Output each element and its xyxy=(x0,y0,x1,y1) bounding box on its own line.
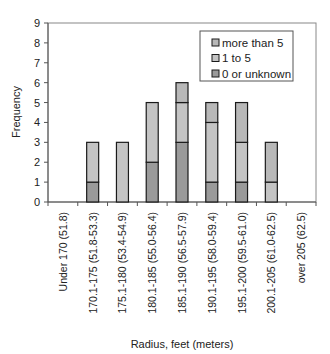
y-tick-label: 2 xyxy=(34,156,40,168)
y-tick-label: 8 xyxy=(34,37,40,49)
legend-label: more than 5 xyxy=(222,37,283,49)
bar-segment xyxy=(87,142,99,182)
x-category-label: 180.1-185 (55.0-56.4) xyxy=(146,212,158,314)
y-tick-label: 5 xyxy=(34,97,40,109)
bar-segment xyxy=(146,103,158,163)
legend: more than 51 to 50 or unknown xyxy=(200,31,293,81)
y-tick-label: 9 xyxy=(34,17,40,29)
x-axis-title: Radius, feet (meters) xyxy=(131,338,234,350)
y-tick-label: 3 xyxy=(34,136,40,148)
y-tick-label: 6 xyxy=(34,77,40,89)
bar-segment xyxy=(265,182,277,202)
bar-segment xyxy=(206,103,218,123)
bar-segment xyxy=(87,182,99,202)
bar-segment xyxy=(176,142,188,202)
x-axis: Under 170 (51.8)170.1-175 (51.8-53.3)175… xyxy=(48,202,316,314)
x-category-label: 200.1-205 (61.0-62.5) xyxy=(265,212,277,314)
bar-segment xyxy=(146,162,158,202)
y-tick-label: 7 xyxy=(34,57,40,69)
x-category-label: over 205 (62.5) xyxy=(295,212,307,283)
legend-swatch xyxy=(212,55,219,62)
bar-segment xyxy=(236,182,248,202)
bar-segment xyxy=(236,142,248,182)
bar-segment xyxy=(206,182,218,202)
y-tick-label: 0 xyxy=(34,196,40,208)
x-category-label: Under 170 (51.8) xyxy=(57,212,69,291)
x-category-label: 175.1-180 (53.4-54.9) xyxy=(116,212,128,314)
x-category-label: 190.1-195 (58.0-59.4) xyxy=(206,212,218,314)
bar-segment xyxy=(206,122,218,182)
legend-label: 0 or unknown xyxy=(222,68,291,80)
bar-segment xyxy=(236,103,248,143)
x-category-label: 185.1-190 (56.5-57.9) xyxy=(176,212,188,314)
bar-segment xyxy=(116,142,128,202)
legend-label: 1 to 5 xyxy=(222,52,251,64)
bar-segment xyxy=(176,103,188,143)
y-tick-label: 1 xyxy=(34,176,40,188)
y-axis-title: Frequency xyxy=(10,86,22,138)
x-category-label: 170.1-175 (51.8-53.3) xyxy=(87,212,99,314)
y-axis: 0123456789 xyxy=(34,17,48,208)
legend-swatch xyxy=(212,70,219,77)
y-tick-label: 4 xyxy=(34,116,40,128)
bar-segment xyxy=(265,142,277,182)
bar-segment xyxy=(176,83,188,103)
x-category-label: 195.1-200 (59.5-61.0) xyxy=(236,212,248,314)
frequency-stacked-bar-chart: 0123456789 Under 170 (51.8)170.1-175 (51… xyxy=(0,0,330,354)
legend-swatch xyxy=(212,39,219,46)
